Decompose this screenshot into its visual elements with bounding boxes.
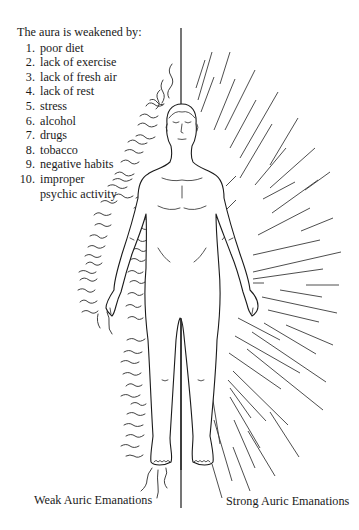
list-item: 7.drugs (17, 128, 142, 143)
factor-list: 1.poor diet 2.lack of exercise 3.lack of… (17, 41, 142, 202)
list-title: The aura is weakened by: (17, 25, 142, 40)
list-item: 5.stress (17, 99, 142, 114)
weak-emanations-caption: Weak Auric Emanations (34, 493, 152, 508)
list-item: 9.negative habits (17, 157, 142, 172)
list-item: 8.tobacco (17, 143, 142, 158)
weakening-factors-list: The aura is weakened by: 1.poor diet 2.l… (17, 25, 142, 201)
list-item: 10.improper (17, 172, 142, 187)
list-item: 4.lack of rest (17, 84, 142, 99)
list-item: 3.lack of fresh air (17, 70, 142, 85)
list-item-continuation: psychic activity (17, 187, 142, 202)
list-item: 2.lack of exercise (17, 55, 142, 70)
list-item: 6.alcohol (17, 114, 142, 129)
list-item: 1.poor diet (17, 41, 142, 56)
strong-emanations-caption: Strong Auric Emanations (226, 494, 349, 509)
